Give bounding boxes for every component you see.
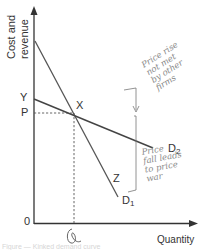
handwritten-q-icon [67,229,81,243]
price-label: P [21,107,28,118]
origin-label: 0 [24,216,30,227]
y-intercept-label: Y [20,92,27,103]
x-axis-arrow-icon [189,220,198,227]
d1-main: D [122,194,130,206]
point-z-label: Z [113,173,120,184]
y-axis-label: Cost and revenue [3,3,33,61]
handwritten-bracket [124,88,139,192]
intersection-label: X [76,100,83,111]
d1-label: D1 [122,195,134,208]
y-axis-label-line2: revenue [18,19,30,59]
figure-caption: Figure — Kinked demand curve [2,243,200,250]
d1-sub: 1 [130,199,134,208]
y-axis-label-line1: Cost and [5,15,17,59]
demand-curve-d2 [34,99,153,148]
demand-curve-d1 [35,41,118,197]
lower-handwritten-note: Price fall leads to price war [141,141,186,183]
